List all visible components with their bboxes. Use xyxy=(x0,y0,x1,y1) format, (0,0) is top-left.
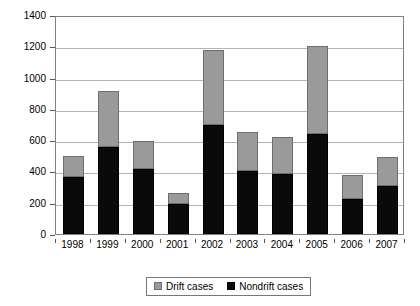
y-tick-mark xyxy=(50,235,55,236)
bar-segment-nondrift xyxy=(63,177,84,234)
bar-2007 xyxy=(377,157,398,234)
bar-segment-drift xyxy=(203,50,224,124)
x-tick-label: 2000 xyxy=(125,239,160,251)
bar-segment-drift xyxy=(272,137,293,174)
y-tick-label: 600 xyxy=(2,136,46,146)
y-tick-label: 200 xyxy=(2,199,46,209)
bar-2000 xyxy=(133,141,154,234)
x-tick-mark xyxy=(230,239,231,243)
bar-1998 xyxy=(63,156,84,234)
y-tick-label: 1200 xyxy=(2,42,46,52)
y-tick-label: 800 xyxy=(2,105,46,115)
bar-segment-nondrift xyxy=(307,134,328,234)
bar-2004 xyxy=(272,137,293,234)
bar-segment-drift xyxy=(98,91,119,147)
bar-segment-drift xyxy=(377,157,398,186)
bar-segment-nondrift xyxy=(203,125,224,235)
bar-segment-drift xyxy=(307,46,328,134)
x-tick-mark xyxy=(160,239,161,243)
bar-2006 xyxy=(342,175,363,234)
bar-2001 xyxy=(168,193,189,234)
x-tick-label: 2007 xyxy=(369,239,404,251)
x-tick-label: 2006 xyxy=(334,239,369,251)
legend-item-drift: Drift cases xyxy=(154,281,213,292)
bar-segment-nondrift xyxy=(168,204,189,235)
legend-item-nondrift: Nondrift cases xyxy=(227,281,303,292)
x-tick-label: 1998 xyxy=(55,239,90,251)
bar-segment-drift xyxy=(237,132,258,171)
bar-segment-drift xyxy=(168,193,189,204)
bar-1999 xyxy=(98,91,119,234)
stacked-bar-chart: 0200400600800100012001400 19981999200020… xyxy=(0,0,420,306)
y-tick-label: 1000 xyxy=(2,74,46,84)
y-axis: 0200400600800100012001400 xyxy=(0,0,46,306)
nondrift-swatch-icon xyxy=(227,282,235,290)
bar-2002 xyxy=(203,50,224,234)
gridline xyxy=(56,48,403,49)
chart-legend: Drift cases Nondrift cases xyxy=(146,277,311,296)
bar-segment-drift xyxy=(133,141,154,169)
x-tick-label: 1999 xyxy=(90,239,125,251)
bar-segment-nondrift xyxy=(272,174,293,234)
legend-label-drift: Drift cases xyxy=(166,281,213,292)
x-tick-mark xyxy=(369,239,370,243)
bar-segment-nondrift xyxy=(133,169,154,234)
x-tick-mark xyxy=(404,239,405,243)
bar-2003 xyxy=(237,132,258,234)
y-tick-label: 400 xyxy=(2,167,46,177)
x-tick-label: 2003 xyxy=(230,239,265,251)
x-tick-mark xyxy=(299,239,300,243)
x-axis: 1998199920002001200220032004200520062007 xyxy=(55,239,404,255)
gridline xyxy=(56,80,403,81)
bar-2005 xyxy=(307,46,328,234)
bar-segment-nondrift xyxy=(237,171,258,234)
x-tick-mark xyxy=(55,239,56,243)
x-tick-mark xyxy=(125,239,126,243)
x-tick-label: 2004 xyxy=(264,239,299,251)
bar-segment-nondrift xyxy=(342,199,363,234)
x-tick-label: 2002 xyxy=(195,239,230,251)
x-tick-label: 2005 xyxy=(299,239,334,251)
bar-segment-nondrift xyxy=(98,147,119,234)
bar-segment-drift xyxy=(63,156,84,177)
x-tick-mark xyxy=(195,239,196,243)
drift-swatch-icon xyxy=(154,282,162,290)
bar-segment-drift xyxy=(342,175,363,199)
x-tick-mark xyxy=(334,239,335,243)
y-tick-label: 0 xyxy=(2,230,46,240)
x-tick-mark xyxy=(264,239,265,243)
x-tick-label: 2001 xyxy=(160,239,195,251)
legend-label-nondrift: Nondrift cases xyxy=(239,281,303,292)
y-tick-label: 1400 xyxy=(2,11,46,21)
x-tick-mark xyxy=(90,239,91,243)
bar-segment-nondrift xyxy=(377,186,398,234)
plot-area xyxy=(55,16,404,235)
